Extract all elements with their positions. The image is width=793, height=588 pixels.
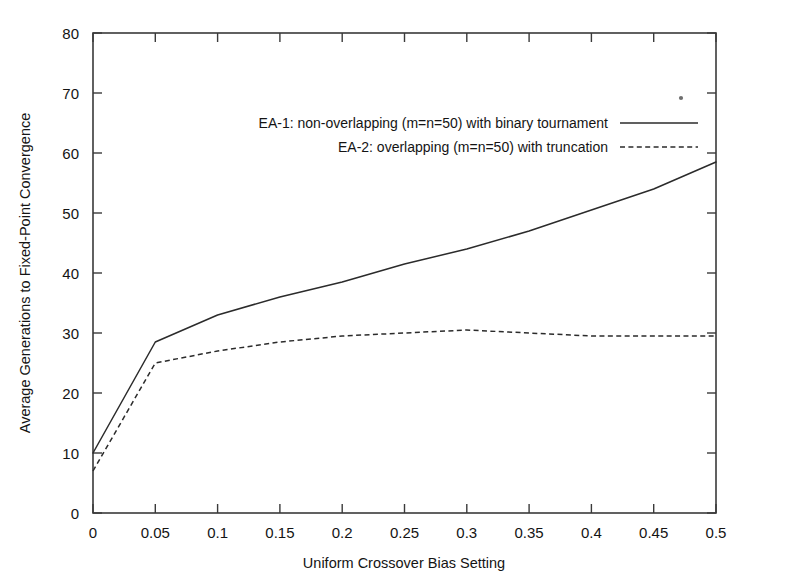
- x-tick-label: 0.45: [639, 524, 668, 541]
- x-tick-label: 0.25: [390, 524, 419, 541]
- x-tick-label: 0.4: [581, 524, 602, 541]
- line-chart: 01020304050607080 00.050.10.150.20.250.3…: [0, 0, 793, 588]
- y-axis-ticks: 01020304050607080: [62, 25, 716, 522]
- x-tick-label: 0.5: [706, 524, 727, 541]
- y-tick-label: 10: [62, 445, 79, 462]
- x-tick-label: 0.05: [141, 524, 170, 541]
- y-tick-label: 20: [62, 385, 79, 402]
- data-series-group: [93, 162, 716, 471]
- y-tick-label: 40: [62, 265, 79, 282]
- y-axis-title: Average Generations to Fixed-Point Conve…: [17, 113, 33, 434]
- x-tick-label: 0.15: [265, 524, 294, 541]
- chart-container: 01020304050607080 00.050.10.150.20.250.3…: [0, 0, 793, 588]
- y-tick-label: 60: [62, 145, 79, 162]
- y-tick-label: 50: [62, 205, 79, 222]
- chart-legend: EA-1: non-overlapping (m=n=50) with bina…: [259, 115, 698, 155]
- legend-label-1: EA-1: non-overlapping (m=n=50) with bina…: [259, 115, 609, 131]
- series-line-2: [93, 330, 716, 471]
- y-tick-label: 30: [62, 325, 79, 342]
- x-tick-label: 0.2: [332, 524, 353, 541]
- x-axis-title: Uniform Crossover Bias Setting: [303, 555, 505, 571]
- x-tick-label: 0: [89, 524, 97, 541]
- series-line-1: [93, 162, 716, 453]
- plot-frame: [93, 33, 716, 513]
- y-tick-label: 80: [62, 25, 79, 42]
- x-tick-label: 0.35: [514, 524, 543, 541]
- x-axis-ticks: 00.050.10.150.20.250.30.350.40.450.5: [89, 33, 727, 541]
- y-tick-label: 70: [62, 85, 79, 102]
- scan-speck-icon: [679, 96, 683, 100]
- legend-label-2: EA-2: overlapping (m=n=50) with truncati…: [338, 139, 608, 155]
- y-tick-label: 0: [71, 505, 79, 522]
- x-tick-label: 0.3: [456, 524, 477, 541]
- x-tick-label: 0.1: [207, 524, 228, 541]
